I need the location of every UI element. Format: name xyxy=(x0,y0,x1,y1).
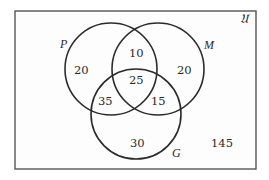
region-m-and-g: 15 xyxy=(151,94,166,108)
region-outside: 145 xyxy=(211,136,233,150)
region-p-and-m: 10 xyxy=(129,46,144,60)
region-p-only: 20 xyxy=(74,63,89,77)
venn-diagram: 𝔘 P M G 20 20 10 25 35 15 30 145 xyxy=(0,0,269,180)
region-p-m-g: 25 xyxy=(129,73,144,87)
region-p-and-g: 35 xyxy=(98,94,113,108)
region-m-only: 20 xyxy=(177,63,192,77)
set-m-label: M xyxy=(203,38,215,52)
set-p-label: P xyxy=(59,37,68,51)
region-g-only: 30 xyxy=(130,136,145,150)
set-g-label: G xyxy=(172,146,181,160)
